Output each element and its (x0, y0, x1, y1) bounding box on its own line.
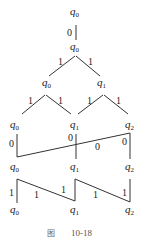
edge-label: 1 (28, 95, 33, 106)
node-r6-q2: q2 (125, 203, 135, 217)
node-r4-q1: q1 (70, 118, 80, 132)
edge-label: 1 (88, 56, 93, 67)
svg-text:q0: q0 (10, 118, 20, 132)
svg-text:q2: q2 (125, 118, 135, 132)
edge-label: 0 (122, 136, 127, 147)
node-r5-q1: q1 (70, 160, 80, 174)
node-r4-q0: q0 (10, 118, 20, 132)
node-r4-q2: q2 (125, 118, 135, 132)
edge-r3-r4 (22, 95, 45, 114)
edge-label: 1 (87, 95, 92, 106)
edge-label: 1 (34, 189, 39, 200)
edge-label: 1 (58, 95, 63, 106)
node-r1-q0: q0 (70, 5, 80, 19)
edge-label: 1 (58, 56, 63, 67)
svg-text:q1: q1 (70, 160, 80, 174)
svg-text:10-18: 10-18 (71, 228, 92, 238)
svg-text:q0: q0 (42, 76, 52, 90)
svg-text:q1: q1 (97, 76, 107, 90)
svg-text:q0: q0 (10, 203, 20, 217)
node-r3-q1: q1 (97, 76, 107, 90)
node-r5-q2: q2 (125, 160, 135, 174)
edge-label: 1 (93, 189, 98, 200)
svg-text:q1: q1 (70, 118, 80, 132)
node-r6-q0: q0 (10, 203, 20, 217)
edge-label: 0 (95, 141, 100, 152)
edge-label: 0 (9, 138, 14, 149)
node-r3-q0: q0 (42, 76, 52, 90)
edge-label: 0 (67, 27, 72, 38)
svg-text:q1: q1 (70, 203, 80, 217)
edge-r4-r5-q0-path (17, 133, 130, 157)
svg-text:q0: q0 (70, 5, 80, 19)
node-r6-q1: q1 (70, 203, 80, 217)
svg-text:q0: q0 (70, 40, 80, 54)
svg-text:q2: q2 (125, 203, 135, 217)
node-r2-q0: q0 (70, 40, 80, 54)
figure-caption: 图 10-18 (47, 228, 92, 238)
transition-tree-diagram: q0 0 q0 1 1 q0 q1 1 1 1 1 q0 q1 q2 0 0 0… (0, 0, 145, 251)
edge-label: 1 (61, 184, 66, 195)
edge-label: 1 (122, 187, 127, 198)
node-r5-q0: q0 (10, 160, 20, 174)
svg-text:图: 图 (47, 229, 55, 238)
edge-label: 0 (68, 132, 73, 143)
edge-label: 1 (116, 95, 121, 106)
svg-text:q2: q2 (125, 160, 135, 174)
svg-text:q0: q0 (10, 160, 20, 174)
edge-label: 1 (9, 187, 14, 198)
